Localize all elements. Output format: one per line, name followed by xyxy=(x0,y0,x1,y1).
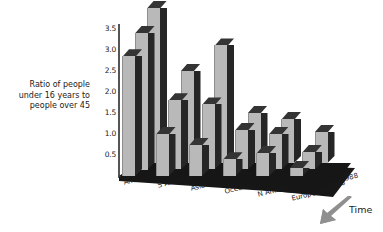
bar-side-face xyxy=(236,159,243,176)
bar-side-face xyxy=(215,104,222,169)
time-axis-title: Time xyxy=(349,205,372,215)
bar-side-face xyxy=(315,152,322,170)
bar-side-face xyxy=(248,130,255,170)
bar-side-face xyxy=(303,168,310,176)
bar-side-face xyxy=(328,132,335,164)
bar-front-face xyxy=(223,159,236,176)
bar-side-face xyxy=(227,45,234,163)
bar-side-face xyxy=(135,56,142,176)
bar-side-face xyxy=(169,134,176,176)
bar-side-face xyxy=(148,33,155,170)
bar-europe-2008 xyxy=(290,168,303,176)
bar-side-face xyxy=(282,134,289,170)
bar-front-face xyxy=(256,153,269,176)
bar-side-face xyxy=(294,119,301,163)
chart-canvas: Ratio of people under 16 years to people… xyxy=(0,0,383,232)
bar-n-america-2008 xyxy=(256,153,269,176)
bar-front-face xyxy=(122,56,135,176)
bar-africa-2008 xyxy=(122,56,135,176)
bar-oceania-2008 xyxy=(223,159,236,176)
bar-side-face xyxy=(202,145,209,177)
bar-s-america-2008 xyxy=(156,134,169,176)
bar-front-face xyxy=(189,145,202,177)
bar-front-face xyxy=(290,168,303,176)
bar-asia-2008 xyxy=(189,145,202,177)
bar-side-face xyxy=(181,100,188,169)
bar-front-face xyxy=(156,134,169,176)
bar-side-face xyxy=(269,153,276,176)
